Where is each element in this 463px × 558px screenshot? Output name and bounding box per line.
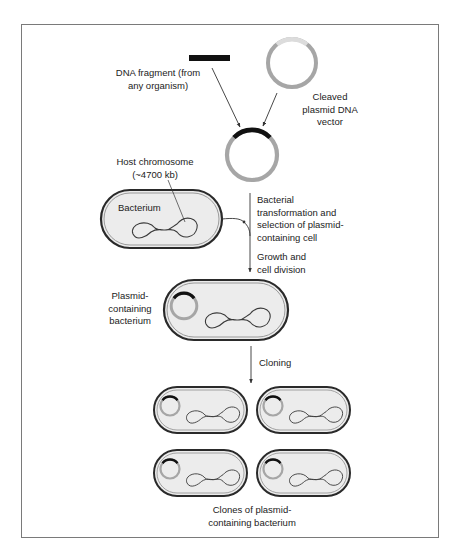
label-cleaved-plasmid: Cleaved plasmid DNA vector <box>295 91 365 129</box>
label-growth-step: Growth and cell division <box>257 251 306 276</box>
label-bacterium: Bacterium <box>118 202 161 215</box>
label-plasmid-bacterium: Plasmid- containing bacterium <box>100 290 160 328</box>
recombinant-plasmid <box>227 130 277 180</box>
arrow-vector <box>263 93 277 126</box>
clone-cell <box>257 387 350 433</box>
clone-cell <box>257 450 350 496</box>
clone-cell <box>154 387 247 433</box>
dna-fragment <box>189 55 230 61</box>
connector-curve <box>222 218 250 236</box>
clone-cell <box>154 450 247 496</box>
cleaved-plasmid <box>268 39 316 87</box>
host-bacterium <box>101 190 222 248</box>
label-cloning-step: Cloning <box>259 357 291 370</box>
plasmid-bacterium <box>164 280 288 340</box>
label-host-chromosome: Host chromosome (~4700 kb) <box>105 156 205 181</box>
label-dna-fragment: DNA fragment (from any organism) <box>108 67 208 92</box>
arrow-fragment <box>212 68 240 127</box>
label-transformation-step: Bacterial transformation and selection o… <box>257 194 344 244</box>
cloning-diagram <box>0 0 463 558</box>
label-clones: Clones of plasmid- containing bacterium <box>192 504 312 529</box>
